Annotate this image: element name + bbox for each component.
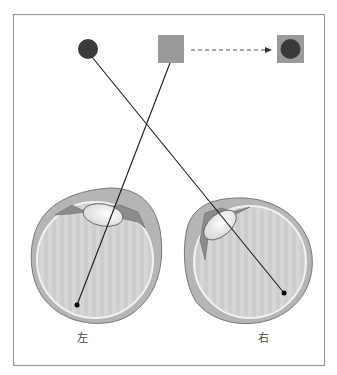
- left-eye-label: 左: [77, 329, 88, 345]
- combined-dark-circle: [281, 39, 301, 59]
- binocular-rivalry-diagram: [0, 0, 337, 375]
- right-retina-point: [282, 291, 287, 296]
- gray-square-stimulus: [158, 35, 184, 63]
- dark-circle-stimulus: [78, 39, 98, 59]
- right-eye-label: 右: [258, 329, 269, 345]
- left-retina-point: [75, 303, 80, 308]
